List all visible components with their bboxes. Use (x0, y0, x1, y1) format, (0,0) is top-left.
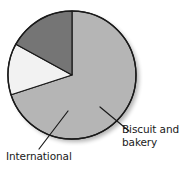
pie-label-international: International (6, 150, 98, 163)
pie-chart-figure: Biscuit and bakery International (0, 0, 191, 169)
pie-label-biscuit-and-bakery: Biscuit and bakery (122, 123, 190, 148)
